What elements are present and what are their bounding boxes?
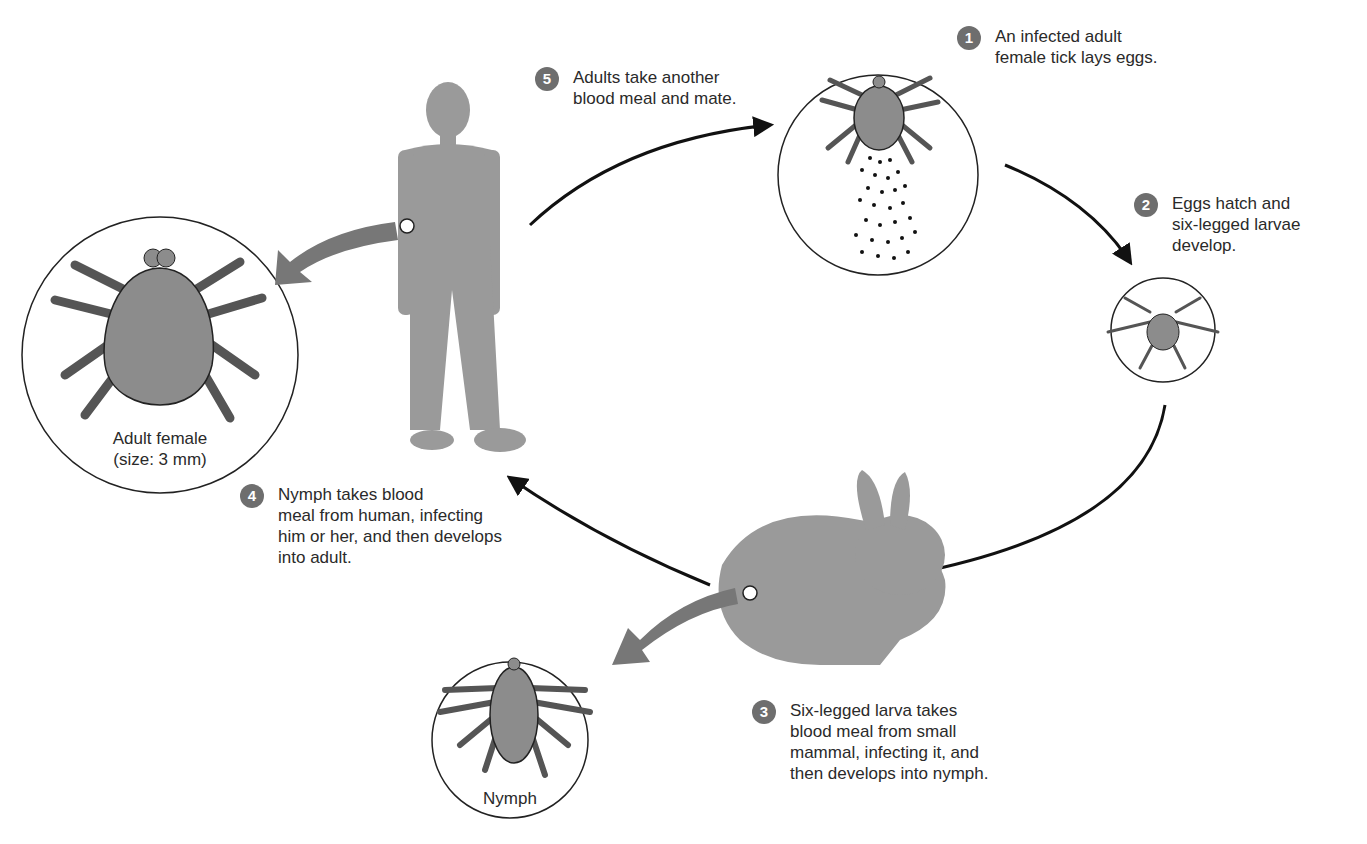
adult-female-caption: Adult female (size: 3 mm) — [85, 428, 235, 470]
step-badge: 1 — [957, 26, 981, 50]
step-badge: 2 — [1134, 193, 1158, 217]
step-5: 5 Adults take another blood meal and mat… — [573, 67, 737, 109]
life-cycle-diagram — [0, 0, 1367, 844]
step-2: 2 Eggs hatch and six-legged larvae devel… — [1172, 193, 1301, 256]
arrow-step3-to-4 — [510, 478, 710, 585]
arrow-step1-to-2 — [1005, 165, 1130, 262]
step-4: 4 Nymph takes blood meal from human, inf… — [278, 484, 502, 568]
step-1: 1 An infected adult female tick lays egg… — [995, 26, 1158, 68]
step-3: 3 Six-legged larva takes blood meal from… — [790, 700, 988, 784]
arrow-step5-to-1 — [530, 125, 770, 225]
callout-arrow-adult — [275, 222, 398, 285]
human-figure — [398, 82, 526, 452]
step-badge: 4 — [240, 484, 264, 508]
rabbit-figure — [719, 470, 946, 665]
nymph-caption: Nymph — [470, 788, 550, 809]
bite-site-human — [400, 219, 414, 233]
step-badge: 5 — [535, 67, 559, 91]
callout-arrow-nymph — [612, 588, 738, 665]
step-badge: 3 — [752, 700, 776, 724]
bite-site-rabbit — [743, 586, 757, 600]
